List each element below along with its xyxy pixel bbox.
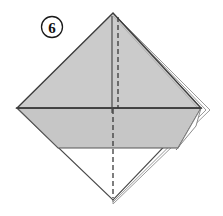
step-number-label: 6 — [48, 20, 56, 36]
origami-illustration: 6 — [0, 0, 223, 216]
step-number-badge: 6 — [42, 17, 63, 38]
origami-step-diagram: 6 — [0, 0, 223, 216]
lower-gray-band — [17, 108, 201, 148]
